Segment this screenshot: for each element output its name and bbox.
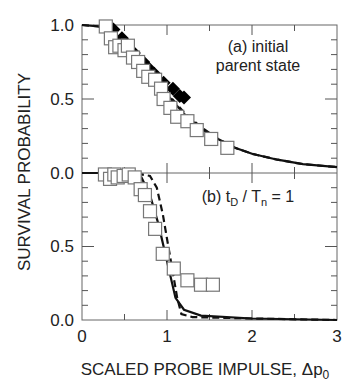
square-marker: [128, 171, 141, 184]
panel-a-label-line2: parent state: [216, 57, 301, 74]
xtick-3: 3: [332, 327, 341, 346]
ytick-a-0.5: 0.5: [50, 90, 74, 109]
square-marker: [121, 39, 134, 52]
panel-a-label-line1: (a) initial: [228, 38, 288, 55]
y-axis-title: SURVIVAL PROBABILITY: [15, 73, 34, 271]
square-marker: [144, 205, 157, 218]
ytick-a-1: 1.0: [50, 16, 74, 35]
square-marker: [195, 278, 208, 291]
square-marker: [181, 274, 194, 287]
survival-probability-chart: 1.0 0.5 0.0 0.5 0.0 0 1 2 3 SCALED PROBE…: [0, 0, 361, 391]
x-axis-title: SCALED PROBE IMPULSE, Δp0: [81, 360, 330, 382]
xtick-2: 2: [247, 327, 256, 346]
ytick-b-0: 0.0: [50, 311, 74, 330]
square-marker: [167, 262, 180, 275]
square-marker: [149, 222, 162, 235]
square-marker: [221, 141, 234, 154]
xtick-1: 1: [162, 327, 171, 346]
square-marker: [156, 247, 169, 260]
ytick-a-0: 0.0: [50, 164, 74, 183]
panel-b-label: (b) tD / Tn = 1: [202, 188, 295, 208]
xtick-0: 0: [77, 327, 86, 346]
square-marker: [138, 189, 151, 202]
square-marker: [206, 278, 219, 291]
square-marker: [99, 20, 112, 33]
ytick-b-0.5: 0.5: [50, 237, 74, 256]
square-marker: [190, 124, 203, 137]
square-marker: [205, 132, 218, 145]
